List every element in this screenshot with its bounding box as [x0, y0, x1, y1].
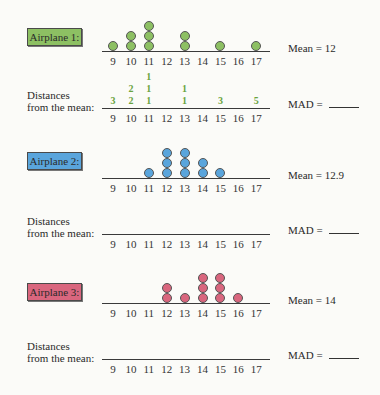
distances-label-line2: from the mean: — [27, 352, 94, 364]
mad-label: MAD = — [288, 349, 323, 361]
data-dot — [180, 158, 190, 168]
data-dot — [198, 273, 208, 283]
distances-label-line1: Distances — [27, 340, 94, 352]
distance-axis — [102, 108, 270, 109]
tick-label: 17 — [246, 55, 266, 67]
distances-from-mean-label: Distancesfrom the mean: — [27, 89, 94, 113]
dot-plot-tick-labels: 91011121314151617 — [0, 55, 380, 69]
dot-plot-axis — [102, 303, 270, 304]
data-dot — [144, 21, 154, 31]
data-dot — [126, 41, 136, 51]
data-dot — [144, 168, 154, 178]
distance-axis — [102, 359, 270, 360]
distances-label-line2: from the mean: — [27, 101, 94, 113]
distances-from-mean-label: Distancesfrom the mean: — [27, 215, 94, 239]
mad-label: MAD = — [288, 224, 323, 236]
data-dot — [215, 273, 225, 283]
distance-tick-labels: 91011121314151617 — [0, 363, 380, 377]
data-dot — [180, 168, 190, 178]
data-dot — [180, 148, 190, 158]
distance-tick-labels: 91011121314151617 — [0, 112, 380, 126]
distance-value: 3 — [214, 95, 226, 106]
data-dot — [108, 41, 118, 51]
data-dot — [162, 148, 172, 158]
data-dot — [215, 41, 225, 51]
distances-from-mean-label: Distancesfrom the mean: — [27, 340, 94, 364]
dot-plot-axis — [102, 178, 270, 179]
airplane-label: Airplane 3: — [27, 283, 82, 301]
data-dot — [198, 283, 208, 293]
mean-value: Mean = 12 — [288, 42, 336, 54]
distance-value: 1 — [179, 95, 191, 106]
distances-label-line2: from the mean: — [27, 227, 94, 239]
tick-label: 17 — [246, 307, 266, 319]
data-dot — [180, 31, 190, 41]
data-dot — [144, 31, 154, 41]
tick-label: 17 — [246, 182, 266, 194]
airplane-label: Airplane 1: — [27, 28, 82, 46]
distance-axis — [102, 234, 270, 235]
mad-answer-blank[interactable] — [329, 98, 359, 108]
tick-label: 17 — [246, 112, 266, 124]
distance-value: 2 — [125, 95, 137, 106]
data-dot — [180, 41, 190, 51]
dot-plot-tick-labels: 91011121314151617 — [0, 307, 380, 321]
data-dot — [233, 293, 243, 303]
tick-label: 17 — [246, 363, 266, 375]
dot-plot-axis — [102, 51, 270, 52]
data-dot — [180, 293, 190, 303]
data-dot — [215, 293, 225, 303]
mad-label: MAD = — [288, 98, 323, 110]
data-dot — [162, 293, 172, 303]
mad-row: MAD = — [288, 98, 359, 110]
distance-tick-labels: 91011121314151617 — [0, 238, 380, 252]
distance-value: 1 — [143, 95, 155, 106]
distances-label-line1: Distances — [27, 215, 94, 227]
distance-value: 1 — [179, 83, 191, 94]
distance-value: 5 — [250, 95, 262, 106]
distance-value: 2 — [125, 83, 137, 94]
mad-row: MAD = — [288, 349, 359, 361]
data-dot — [198, 293, 208, 303]
data-dot — [215, 168, 225, 178]
distances-label-line1: Distances — [27, 89, 94, 101]
data-dot — [126, 31, 136, 41]
distance-value: 1 — [143, 83, 155, 94]
data-dot — [162, 158, 172, 168]
dot-plot-tick-labels: 91011121314151617 — [0, 182, 380, 196]
mad-row: MAD = — [288, 224, 359, 236]
data-dot — [144, 41, 154, 51]
mean-value: Mean = 14 — [288, 294, 336, 306]
mean-value: Mean = 12.9 — [288, 169, 344, 181]
distance-value: 1 — [143, 71, 155, 82]
distance-value: 3 — [107, 95, 119, 106]
data-dot — [251, 41, 261, 51]
data-dot — [198, 168, 208, 178]
data-dot — [162, 283, 172, 293]
data-dot — [215, 283, 225, 293]
data-dot — [162, 168, 172, 178]
mad-answer-blank[interactable] — [329, 224, 359, 234]
mad-answer-blank[interactable] — [329, 349, 359, 359]
data-dot — [198, 158, 208, 168]
tick-label: 17 — [246, 238, 266, 250]
airplane-label: Airplane 2: — [27, 152, 82, 170]
